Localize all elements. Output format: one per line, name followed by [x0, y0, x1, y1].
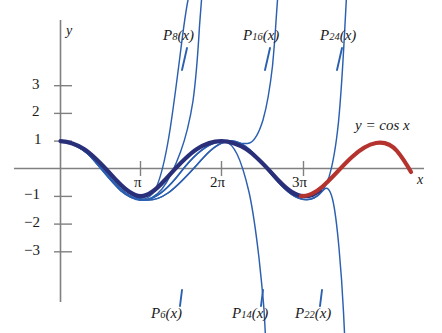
label-p6-base: P — [151, 305, 160, 321]
y-tick-label-3: 3 — [32, 76, 40, 93]
x-tick-label-3pi: 3π — [292, 174, 307, 191]
label-p22-sub: 22 — [304, 309, 315, 320]
leader-p14 — [261, 290, 263, 306]
label-p16-base: P — [243, 27, 252, 43]
leader-p24 — [337, 48, 342, 70]
label-p22-arg: (x) — [315, 305, 332, 321]
label-p16-sub: 16 — [252, 31, 263, 42]
leader-p6 — [180, 290, 182, 306]
label-p24-base: P — [320, 27, 329, 43]
label-p22-base: P — [295, 305, 304, 321]
label-leader-lines — [180, 48, 342, 306]
label-p14-arg: (x) — [252, 305, 269, 321]
y-tick-label-neg3: −3 — [24, 242, 40, 259]
plot-canvas — [0, 0, 442, 333]
leader-p16 — [265, 48, 270, 70]
leader-p22 — [320, 290, 322, 306]
taylor-polynomial-figure: y x 3 2 1 −1 −2 −3 π 2π 3π y = cos x P8(… — [0, 0, 442, 333]
label-p14-sub: 14 — [241, 309, 252, 320]
label-p16-arg: (x) — [263, 27, 280, 43]
label-p8-arg: (x) — [177, 27, 194, 43]
x-tick-label-2pi: 2π — [210, 174, 225, 191]
y-tick-label-neg1: −1 — [24, 186, 40, 203]
label-p16: P16(x) — [243, 27, 279, 44]
cosine-curve-label: y = cos x — [355, 117, 410, 134]
label-p8: P8(x) — [163, 27, 194, 44]
label-p22: P22(x) — [295, 305, 331, 322]
x-tick-label-pi: π — [134, 174, 142, 191]
label-p14: P14(x) — [232, 305, 268, 322]
leader-p8 — [182, 48, 187, 70]
label-p6: P6(x) — [151, 305, 182, 322]
label-p24: P24(x) — [320, 27, 356, 44]
axes — [14, 20, 424, 302]
y-tick-label-2: 2 — [32, 103, 40, 120]
label-p24-arg: (x) — [340, 27, 357, 43]
label-p6-arg: (x) — [165, 305, 182, 321]
y-tick-label-1: 1 — [34, 131, 42, 148]
x-axis-label: x — [417, 172, 423, 188]
label-p8-base: P — [163, 27, 172, 43]
label-p14-base: P — [232, 305, 241, 321]
y-tick-label-neg2: −2 — [24, 214, 40, 231]
y-axis-label: y — [66, 23, 72, 39]
cosine-curve-red — [301, 143, 411, 197]
label-p24-sub: 24 — [329, 31, 340, 42]
